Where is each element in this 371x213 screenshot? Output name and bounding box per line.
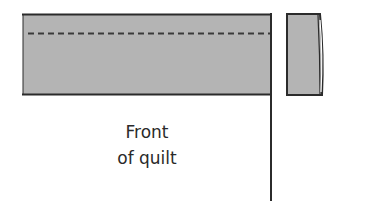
front-of-quilt-label-line1: Front	[23, 120, 271, 145]
folded-binding-end	[287, 14, 323, 95]
binding-strip	[22, 14, 272, 95]
quilt-binding-diagram	[0, 0, 371, 213]
front-of-quilt-label-line2: of quilt	[23, 146, 271, 171]
